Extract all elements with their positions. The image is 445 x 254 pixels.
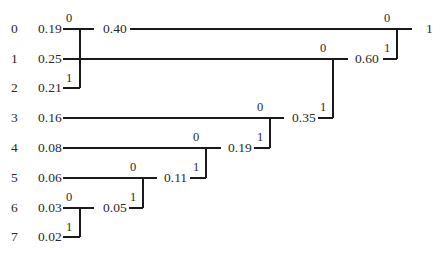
bit-label-1: 1 — [384, 42, 390, 55]
bit-label-1: 1 — [130, 191, 136, 204]
symbol-probability: 0.19 — [38, 22, 62, 36]
symbol-index: 6 — [11, 201, 25, 215]
bit-label-0: 0 — [320, 42, 326, 55]
symbol-probability: 0.06 — [38, 171, 62, 185]
merge-result-label: 0.35 — [292, 111, 316, 125]
symbol-probability: 0.25 — [38, 52, 62, 66]
bit-label-1: 1 — [66, 72, 72, 85]
bit-label-1: 1 — [66, 221, 72, 234]
symbol-index: 4 — [11, 141, 25, 155]
symbol-index: 7 — [11, 230, 25, 244]
tree-lines — [0, 0, 445, 254]
merge-result-label: 0.40 — [103, 22, 127, 36]
bit-label-0: 0 — [193, 131, 199, 144]
bit-label-0: 0 — [384, 12, 390, 25]
bit-label-0: 0 — [66, 191, 72, 204]
merge-result-label: 0.11 — [164, 171, 187, 185]
merge-result-label: 0.60 — [355, 52, 379, 66]
bit-label-0: 0 — [257, 101, 263, 114]
symbol-probability: 0.08 — [38, 141, 62, 155]
symbol-probability: 0.03 — [38, 201, 62, 215]
bit-label-0: 0 — [130, 161, 136, 174]
symbol-index: 5 — [11, 171, 25, 185]
bit-label-1: 1 — [193, 161, 199, 174]
bit-label-1: 1 — [257, 131, 263, 144]
symbol-probability: 0.16 — [38, 111, 62, 125]
root-label: 1 — [426, 22, 433, 36]
symbol-probability: 0.02 — [38, 230, 62, 244]
symbol-index: 2 — [11, 81, 25, 95]
bit-label-0: 0 — [66, 12, 72, 25]
symbol-index: 1 — [11, 52, 25, 66]
huffman-tree-diagram: 0 1 2 3 4 5 6 7 0.19 0.25 0.21 0.16 0.08… — [0, 0, 445, 254]
merge-result-label: 0.05 — [103, 201, 127, 215]
symbol-index: 3 — [11, 111, 25, 125]
symbol-probability: 0.21 — [38, 81, 62, 95]
merge-result-label: 0.19 — [228, 141, 252, 155]
symbol-index: 0 — [11, 22, 25, 36]
bit-label-1: 1 — [320, 101, 326, 114]
